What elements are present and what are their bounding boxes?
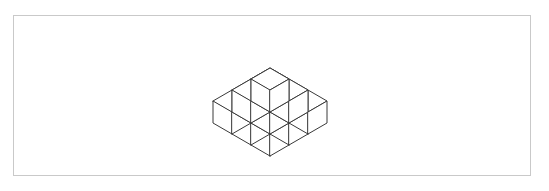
isometric-cube-stack [0,0,549,191]
page-root [0,0,549,191]
